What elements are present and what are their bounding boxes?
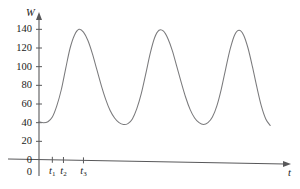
x-axis-label: t [288, 168, 291, 179]
y-axis-arrow-icon [36, 12, 42, 20]
axes-group [8, 12, 291, 176]
y-tick-label: 120 [3, 43, 32, 54]
y-tick-label: 80 [3, 80, 32, 91]
x-tick-label-subscript: 3 [83, 170, 87, 178]
y-tick-label: 40 [3, 118, 32, 129]
x-tick-label-subscript: 2 [63, 170, 67, 178]
chart-figure: 1401201008060402000 t1t2t3 W t [0, 0, 300, 189]
y-tick-label: 0 [3, 155, 32, 166]
y-tick-label: 60 [3, 99, 32, 110]
plot-canvas [0, 0, 300, 189]
y-axis-label: W [26, 8, 35, 19]
data-curve [39, 29, 270, 125]
y-tick-label: 20 [3, 136, 32, 147]
x-axis-line [8, 159, 285, 164]
y-tick-label: 140 [3, 24, 32, 35]
y-tick-label: 100 [3, 62, 32, 73]
x-tick-label: t3 [69, 166, 97, 178]
origin-label: 0 [3, 167, 32, 178]
